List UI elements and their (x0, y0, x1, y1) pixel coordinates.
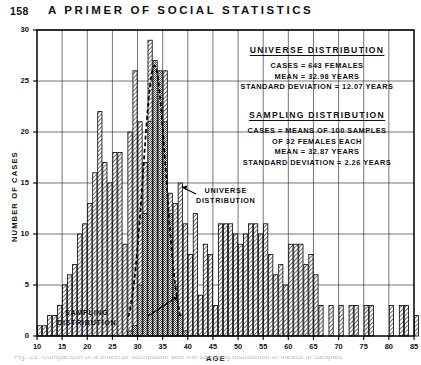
x-tick-65: 65 (305, 342, 321, 351)
y-tick-20: 20 (13, 127, 29, 136)
x-tick-85: 85 (406, 342, 421, 351)
universe-legend-title: UNIVERSE DISTRIBUTION (218, 45, 416, 55)
y-tick-0: 0 (13, 331, 29, 340)
universe-legend-line-0: CASES = 643 FEMALES (218, 61, 416, 72)
sampling-legend-line-1: OF 32 FEMALES EACH (218, 137, 416, 148)
universe-legend-line-2: STANDARD DEVIATION = 12.07 YEARS (218, 82, 416, 93)
figure-caption-strip: Fig. 33. Comparison of a universe distri… (0, 356, 421, 365)
x-tick-80: 80 (381, 342, 397, 351)
callout-sampling-line-1: DISTRIBUTION (57, 318, 117, 328)
x-tick-20: 20 (79, 342, 95, 351)
callout-universe-line-0: UNIVERSE (196, 186, 256, 196)
universe-legend-line-1: MEAN = 32.98 YEARS (218, 72, 416, 83)
book-title: A PRIMER OF SOCIAL STATISTICS (48, 4, 313, 16)
callout-sampling-line-0: SAMPLING (57, 308, 117, 318)
x-tick-75: 75 (356, 342, 372, 351)
chart-figure: 051015202530 101520253035404550556065707… (0, 24, 421, 365)
sampling-distribution-legend: SAMPLING DISTRIBUTION CASES = MEANS OF 1… (218, 110, 416, 168)
x-tick-40: 40 (180, 342, 196, 351)
sampling-legend-title: SAMPLING DISTRIBUTION (218, 110, 416, 120)
x-tick-45: 45 (205, 342, 221, 351)
sampling-legend-line-3: STANDARD DEVIATION = 2.26 YEARS (218, 158, 416, 169)
x-tick-25: 25 (104, 342, 120, 351)
y-tick-25: 25 (13, 76, 29, 85)
callout-universe-distribution: UNIVERSE DISTRIBUTION (196, 186, 256, 205)
y-axis-title: NUMBER OF CASES (10, 151, 19, 242)
x-tick-10: 10 (29, 342, 45, 351)
x-tick-60: 60 (280, 342, 296, 351)
sampling-legend-line-2: MEAN = 32.87 YEARS (218, 147, 416, 158)
x-tick-70: 70 (331, 342, 347, 351)
figure-caption: Fig. 33. Comparison of a universe distri… (14, 356, 342, 360)
figure-page: 158 A PRIMER OF SOCIAL STATISTICS (0, 0, 421, 365)
y-tick-30: 30 (13, 25, 29, 34)
x-tick-50: 50 (230, 342, 246, 351)
universe-distribution-legend: UNIVERSE DISTRIBUTION CASES = 643 FEMALE… (218, 45, 416, 93)
sampling-legend-line-0: CASES = MEANS OF 100 SAMPLES (218, 126, 416, 137)
page-number: 158 (10, 5, 29, 17)
x-tick-55: 55 (255, 342, 271, 351)
y-tick-5: 5 (13, 280, 29, 289)
callout-universe-line-1: DISTRIBUTION (196, 196, 256, 206)
x-tick-15: 15 (54, 342, 70, 351)
running-head: 158 A PRIMER OF SOCIAL STATISTICS (0, 4, 421, 22)
x-tick-35: 35 (155, 342, 171, 351)
callout-sampling-distribution: SAMPLING DISTRIBUTION (57, 308, 117, 327)
x-tick-30: 30 (130, 342, 146, 351)
